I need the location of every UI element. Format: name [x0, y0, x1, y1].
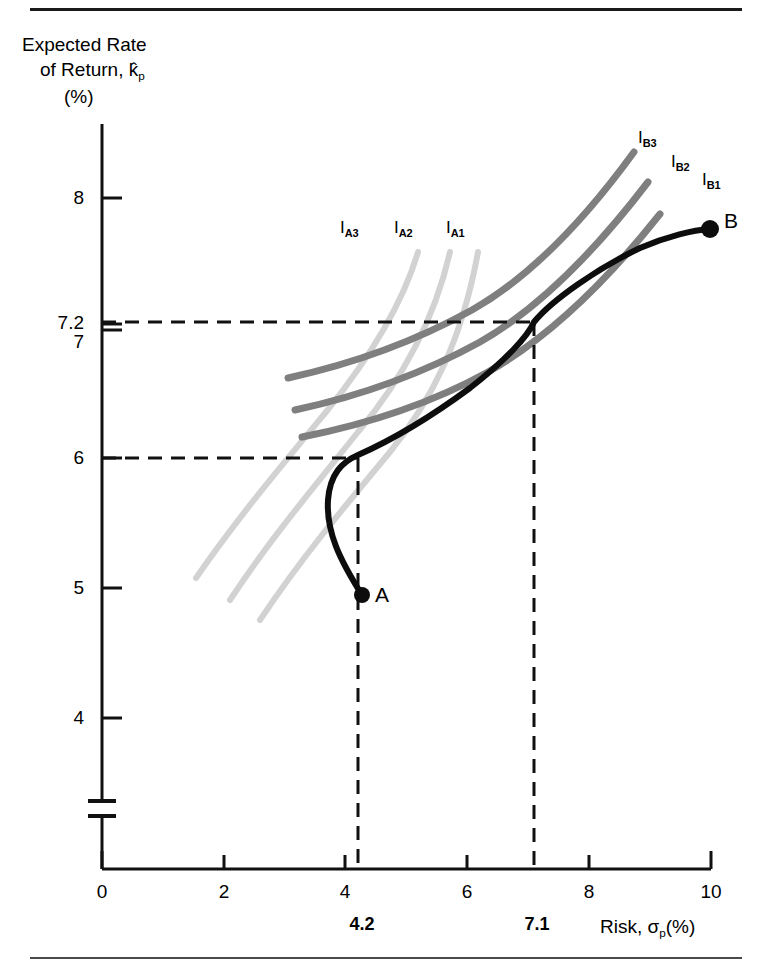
data-point-A: [354, 587, 370, 603]
efficient-frontier-curve: [328, 229, 709, 595]
indifference-curves-A: [196, 252, 478, 620]
indifference-curve-IB3: [288, 152, 634, 378]
figure-page: Expected Rate of Return, k̂p (%) Risk, σ…: [0, 0, 771, 977]
data-point-B: [701, 220, 719, 238]
chart-canvas: [0, 0, 771, 977]
indifference-curve-IB2: [295, 182, 648, 410]
x-axis: [102, 851, 711, 869]
indifference-curves-B: [288, 152, 660, 437]
indifference-curve-IB1: [302, 214, 660, 437]
y-axis: [88, 124, 122, 869]
indifference-curve-IA1: [260, 252, 478, 620]
